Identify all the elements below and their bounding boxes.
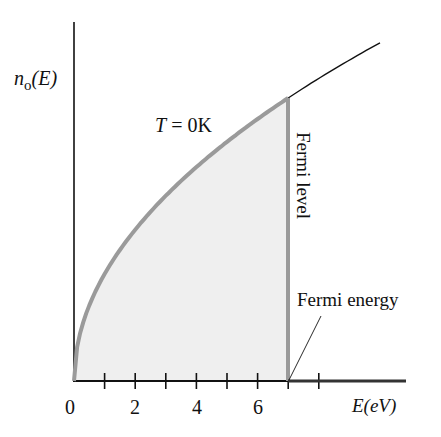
x-tick-label-2: 2 xyxy=(130,396,140,418)
x-tick-label-4: 4 xyxy=(192,396,202,418)
fermi-energy-label: Fermi energy xyxy=(297,289,399,310)
x-axis-label: E(eV) xyxy=(351,395,396,417)
fermi-dirac-plot: no(E) T = 0K Fermi level Fermi energy E(… xyxy=(0,0,441,437)
fermi-energy-pointer xyxy=(289,316,321,380)
occupied-states-area xyxy=(74,98,288,381)
temperature-label: T = 0K xyxy=(155,114,212,136)
chart-container: no(E) T = 0K Fermi level Fermi energy E(… xyxy=(0,0,441,437)
x-tick-label-6: 6 xyxy=(253,396,263,418)
x-tick-label-0: 0 xyxy=(65,396,75,418)
y-axis-label: no(E) xyxy=(14,67,57,93)
dos-continuation-line xyxy=(288,43,380,98)
fermi-level-label: Fermi level xyxy=(293,132,314,219)
